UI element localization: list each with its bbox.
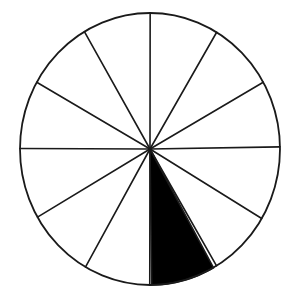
fraction-circle-figure: Circle divided into twelve equal sectors… (0, 0, 296, 302)
sector-divider-line (20, 148, 150, 149)
pie-chart-svg: Circle divided into twelve equal sectors… (0, 0, 296, 302)
